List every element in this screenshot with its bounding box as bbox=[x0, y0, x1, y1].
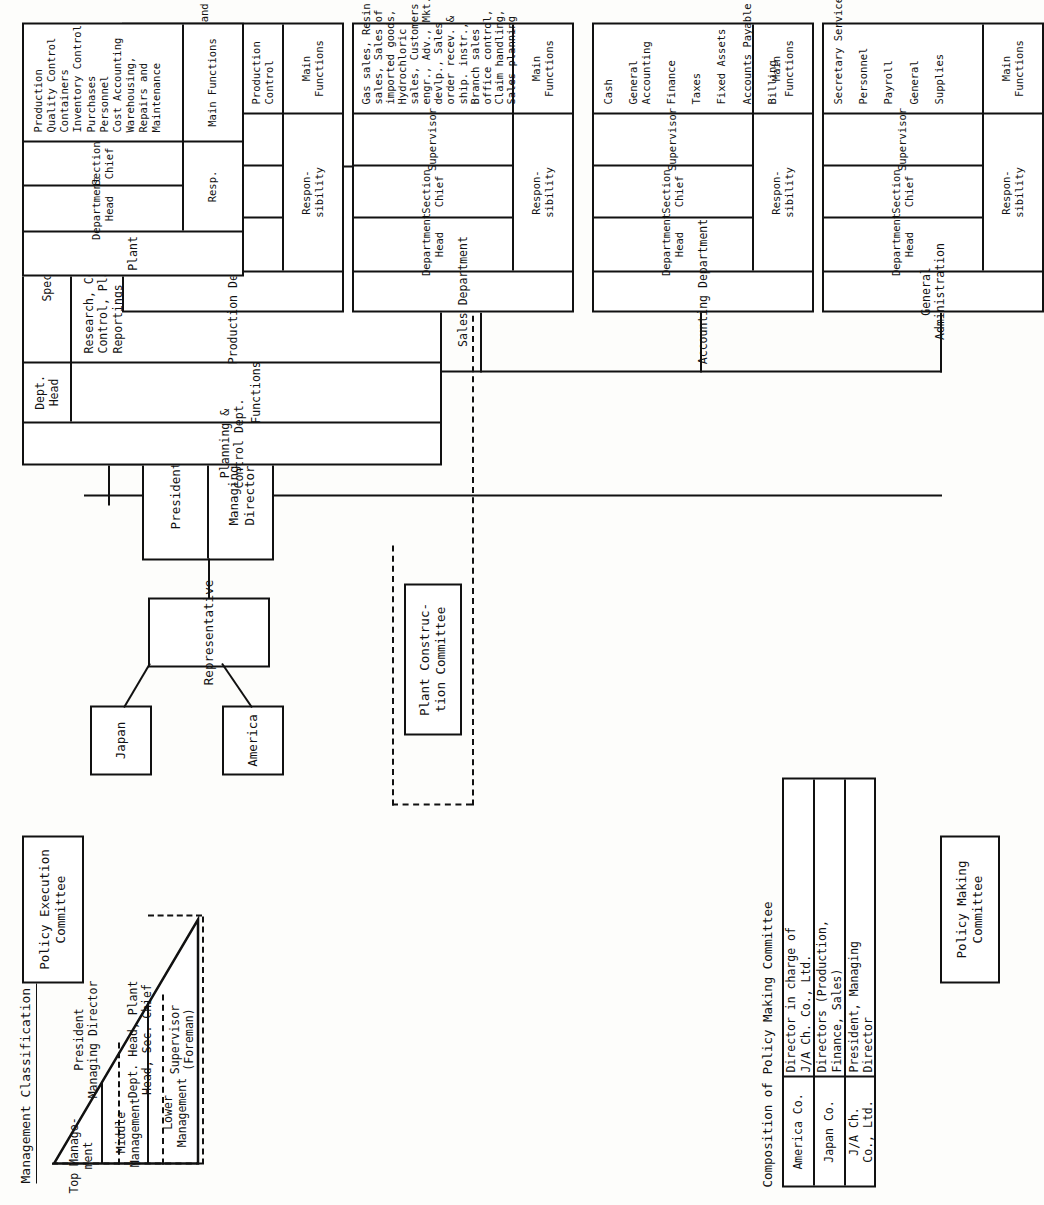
sales-functions: Gas sales, Resin sales, Sales of importe… bbox=[354, 24, 524, 112]
accounting-resp-label: Respon- sibility bbox=[754, 112, 812, 270]
accounting-role-2: Supervisor bbox=[594, 112, 752, 164]
plant-functions: Production Quality Control Containers In… bbox=[24, 24, 198, 140]
planning-role-dept-head: Dept. Head bbox=[24, 361, 70, 421]
general-admin-resp-label: Respon- sibility bbox=[984, 112, 1042, 270]
management-classification-heading: Management Classification bbox=[18, 987, 33, 1183]
policy-execution-committee-box[interactable]: Policy Execution Committee bbox=[22, 835, 84, 983]
plant-role-0: Department Head bbox=[24, 184, 182, 230]
plant-func-label: Main Functions bbox=[184, 24, 242, 140]
pmc-party-3: J/A Ch. Co., Ltd. bbox=[846, 1075, 876, 1185]
representative-box[interactable]: Representative bbox=[148, 597, 270, 667]
brace-left bbox=[52, 1162, 202, 1164]
pmc-party-1: America Co. bbox=[784, 1075, 813, 1185]
pmc-row-1: America Co. Director in charge of J/A Ch… bbox=[784, 779, 815, 1185]
accounting-role-0: Department Head bbox=[594, 216, 752, 270]
pmc-row-3: J/A Ch. Co., Ltd. President, Managing Di… bbox=[846, 779, 876, 1185]
role-group-lower: Supervisor (Foreman) bbox=[164, 917, 200, 1161]
shareholder-connectors bbox=[88, 659, 288, 709]
plant-construction-committee-box[interactable]: Plant Construc- tion Committee bbox=[404, 583, 462, 735]
president-pmc-link bbox=[272, 494, 942, 496]
accounting-department-card[interactable]: Accounting Department Department Head Se… bbox=[592, 22, 814, 312]
pmc-table: America Co. Director in charge of J/A Ch… bbox=[782, 777, 876, 1187]
sales-department-card[interactable]: Sales Department Department Head Section… bbox=[352, 22, 574, 312]
sales-dept-name: Sales Department bbox=[354, 270, 572, 310]
plant-card[interactable]: Plant Department Head Section Chief Prod… bbox=[22, 22, 244, 276]
md-planning-link bbox=[108, 463, 110, 505]
general-admin-func-label: Main Functions bbox=[984, 24, 1042, 112]
accounting-role-1: Section Chief bbox=[594, 164, 752, 216]
brace-bottom bbox=[202, 916, 204, 1164]
heading-underline bbox=[36, 965, 37, 1183]
accounting-func-label: Main Functions bbox=[754, 24, 812, 112]
pmc-row-2: Japan Co. Directors (Production, Finance… bbox=[815, 779, 846, 1185]
pcc-dashed-to-plant bbox=[472, 275, 474, 805]
pmc-members-3: President, Managing Director bbox=[846, 779, 876, 1077]
sales-role-1: Section Chief bbox=[354, 164, 512, 216]
planning-functions-label: Functions bbox=[72, 361, 440, 421]
general-admin-role-0: Department Head bbox=[824, 216, 982, 270]
role-group-middle: Dept. Head, Plant Head, Sec. Chief bbox=[120, 917, 160, 1161]
pcc-dashed-riser bbox=[392, 803, 472, 805]
plant-resp-label: Resp. bbox=[184, 140, 242, 230]
pmc-members-1: Director in charge of J/A Ch. Co., Ltd. bbox=[784, 779, 813, 1077]
plant-name: Plant bbox=[24, 230, 242, 274]
accounting-functions: Cash General Accounting Finance Taxes Fi… bbox=[594, 24, 768, 112]
pmc-party-2: Japan Co. bbox=[815, 1075, 844, 1185]
pmc-table-title: Composition of Policy Making Committee bbox=[760, 901, 776, 1187]
planning-dept-name: Planning & Control Dept. bbox=[24, 421, 440, 463]
policy-making-committee-box[interactable]: Policy Making Committee bbox=[940, 835, 1000, 983]
sales-role-0: Department Head bbox=[354, 216, 512, 270]
america-box[interactable]: America bbox=[222, 705, 284, 775]
sales-role-2: Supervisor bbox=[354, 112, 512, 164]
pmc-members-2: Directors (Production, Finance, Sales) bbox=[815, 779, 844, 1077]
general-admin-name: General Administration bbox=[824, 270, 1042, 310]
rep-president-link bbox=[208, 558, 210, 598]
plant-role-1: Section Chief bbox=[24, 140, 182, 184]
president-pec-link bbox=[84, 494, 144, 496]
general-admin-functions: Secretary Service Personnel Payroll Gene… bbox=[824, 24, 998, 112]
production-func-label: Main Functions bbox=[284, 24, 342, 112]
production-resp-label: Respon- sibility bbox=[284, 112, 342, 270]
brace-right bbox=[148, 914, 202, 916]
japan-box[interactable]: Japan bbox=[90, 705, 152, 775]
general-administration-card[interactable]: General Administration Department Head S… bbox=[822, 22, 1044, 312]
pcc-dashed-stub bbox=[392, 545, 394, 805]
sales-resp-label: Respon- sibility bbox=[514, 112, 572, 270]
accounting-dept-name: Accounting Department bbox=[594, 270, 812, 310]
branch-sales bbox=[480, 312, 482, 372]
general-admin-role-1: Section Chief bbox=[824, 164, 982, 216]
sales-func-label: Main Functions bbox=[514, 24, 572, 112]
general-admin-role-2: Supervisor bbox=[824, 112, 982, 164]
